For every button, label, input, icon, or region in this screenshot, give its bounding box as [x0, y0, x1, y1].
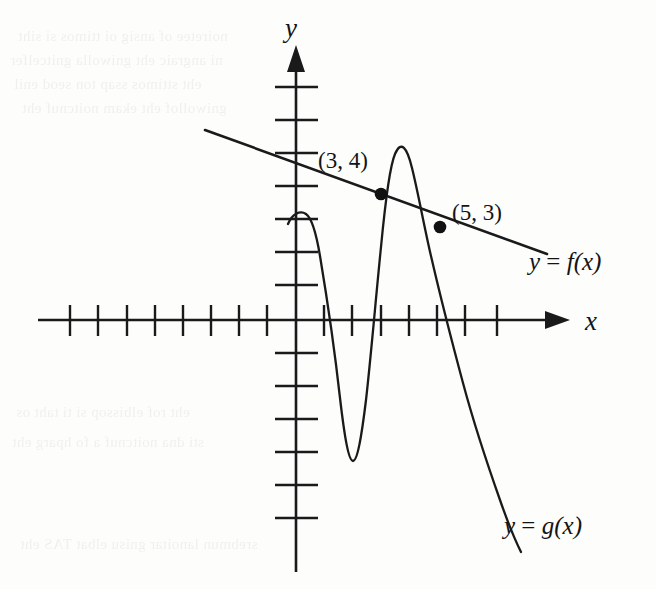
- intersection-dot-3-4: [375, 188, 388, 201]
- point-label-3-4: (3, 4): [318, 148, 368, 173]
- y-axis-arrow-icon: [287, 45, 305, 72]
- label-g-y: y: [501, 512, 516, 539]
- label-f-y: y: [526, 248, 541, 275]
- y-axis-label: y: [282, 13, 297, 43]
- x-axis-arrow-icon: [545, 311, 570, 329]
- coordinate-graph: (3, 4) (5, 3) x y y = f(x) y = g(x): [0, 0, 656, 589]
- intersection-dot-5-3: [434, 221, 447, 234]
- axes-group: [38, 45, 570, 572]
- label-y-equals-f-of-x: y = f(x): [526, 248, 601, 276]
- svg-text:y = f(x): y = f(x): [526, 248, 601, 276]
- label-g-eq: =: [515, 512, 542, 539]
- label-f-arg: (x): [574, 248, 602, 276]
- label-f-eq: =: [540, 248, 567, 275]
- label-g-fn: g: [542, 512, 555, 539]
- point-label-5-3: (5, 3): [452, 200, 502, 225]
- label-y-equals-g-of-x: y = g(x): [501, 512, 582, 540]
- x-axis-label: x: [584, 306, 597, 336]
- label-g-arg: (x): [554, 512, 582, 540]
- svg-text:y = g(x): y = g(x): [501, 512, 582, 540]
- figure-root: noiretee of ansig oi ttimos si siht ni a…: [0, 0, 656, 589]
